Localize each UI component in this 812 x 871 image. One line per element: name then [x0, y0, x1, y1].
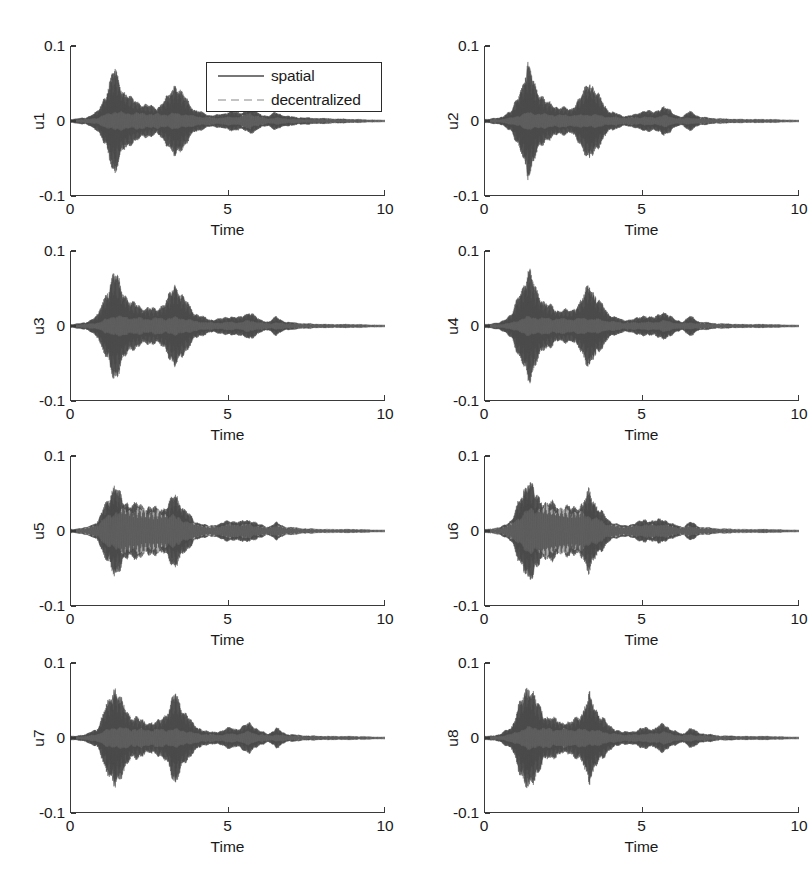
y-axis-title-u5: u5: [30, 522, 48, 539]
x-axis-line: [484, 400, 799, 401]
x-axis-line: [70, 812, 385, 813]
x-tick-label: 10: [791, 406, 808, 422]
x-tick-label: 0: [66, 406, 74, 422]
waveform-u8: [484, 663, 799, 813]
y-tick-label: 0: [57, 113, 65, 129]
x-axis-line: [484, 195, 799, 196]
x-axis-title: Time: [211, 426, 245, 444]
plot-area-u5: 0.10-0.10510Timeu5: [70, 456, 385, 606]
subplot-u5: 0.10-0.10510Timeu5: [24, 448, 399, 653]
x-axis-line: [484, 605, 799, 606]
plot-area-u1: 0.10-0.10510Timeu1spatialdecentralized: [70, 46, 385, 196]
y-tick: [71, 530, 76, 531]
x-tick-label: 10: [791, 611, 808, 627]
y-axis-title-u3: u3: [30, 317, 48, 334]
x-tick: [70, 600, 71, 605]
subplot-u6: 0.10-0.10510Timeu6: [438, 448, 812, 653]
plot-area-u7: 0.10-0.10510Timeu7: [70, 663, 385, 813]
x-tick: [642, 395, 643, 400]
solid-line-icon: [216, 69, 266, 83]
plot-area-u2: 0.10-0.10510Timeu2: [484, 46, 799, 196]
y-tick: [71, 737, 76, 738]
y-tick-label: 0.1: [44, 243, 65, 259]
y-tick-label: -0.1: [453, 188, 479, 204]
dashed-line-icon: [216, 93, 266, 107]
x-axis-title: Time: [625, 631, 659, 649]
y-tick-label: -0.1: [453, 805, 479, 821]
x-tick-label: 10: [377, 201, 394, 217]
y-tick: [485, 605, 490, 606]
x-tick-label: 5: [637, 201, 645, 217]
waveform-u2: [484, 46, 799, 196]
y-tick-label: -0.1: [39, 598, 65, 614]
x-axis-title: Time: [625, 426, 659, 444]
x-tick-label: 5: [223, 818, 231, 834]
x-tick: [228, 190, 229, 195]
waveform-u5: [70, 456, 385, 606]
y-tick: [485, 737, 490, 738]
y-tick: [71, 400, 76, 401]
y-tick: [71, 605, 76, 606]
y-tick: [485, 250, 490, 251]
x-tick-label: 5: [637, 818, 645, 834]
y-tick-label: 0.1: [44, 655, 65, 671]
x-tick-label: 5: [637, 406, 645, 422]
y-tick: [485, 400, 490, 401]
subplot-u3: 0.10-0.10510Timeu3: [24, 243, 399, 448]
y-tick-label: -0.1: [453, 598, 479, 614]
x-tick: [798, 395, 799, 400]
waveform-u7: [70, 663, 385, 813]
y-tick: [485, 455, 490, 456]
y-axis-title-u4: u4: [444, 317, 462, 334]
waveform-u3: [70, 251, 385, 401]
x-tick: [642, 190, 643, 195]
x-tick-label: 10: [377, 611, 394, 627]
x-axis-title: Time: [625, 838, 659, 856]
y-tick-label: -0.1: [39, 393, 65, 409]
x-tick-label: 0: [480, 406, 488, 422]
x-tick: [384, 190, 385, 195]
x-tick-label: 0: [66, 611, 74, 627]
y-tick-label: 0.1: [44, 448, 65, 464]
x-tick-label: 0: [480, 611, 488, 627]
y-tick: [71, 325, 76, 326]
y-axis-title-u1: u1: [30, 112, 48, 129]
plot-area-u4: 0.10-0.10510Timeu4: [484, 251, 799, 401]
plot-area-u6: 0.10-0.10510Timeu6: [484, 456, 799, 606]
subplot-u8: 0.10-0.10510Timeu8: [438, 655, 812, 860]
x-axis-title: Time: [211, 631, 245, 649]
y-tick: [71, 250, 76, 251]
legend-label: spatial: [271, 68, 314, 84]
x-tick: [642, 600, 643, 605]
x-tick-label: 5: [223, 201, 231, 217]
x-axis-line: [70, 400, 385, 401]
legend-entry-spatial: spatial: [207, 63, 381, 88]
subplot-u2: 0.10-0.10510Timeu2: [438, 38, 812, 243]
y-tick: [485, 45, 490, 46]
x-tick-label: 10: [791, 201, 808, 217]
legend-box: spatialdecentralized: [206, 62, 382, 112]
y-tick: [71, 45, 76, 46]
y-tick-label: -0.1: [39, 805, 65, 821]
x-tick: [70, 190, 71, 195]
y-tick: [71, 195, 76, 196]
x-tick: [484, 600, 485, 605]
y-tick-label: 0: [57, 523, 65, 539]
y-tick: [485, 662, 490, 663]
legend-label: decentralized: [271, 92, 361, 108]
y-tick: [485, 325, 490, 326]
x-tick: [484, 395, 485, 400]
y-tick: [71, 662, 76, 663]
x-axis-title: Time: [211, 221, 245, 239]
x-tick-label: 10: [377, 406, 394, 422]
y-tick: [71, 812, 76, 813]
x-tick: [70, 395, 71, 400]
x-tick: [484, 807, 485, 812]
x-tick-label: 5: [223, 406, 231, 422]
x-tick: [384, 600, 385, 605]
y-tick-label: 0: [471, 113, 479, 129]
y-tick-label: 0: [57, 730, 65, 746]
y-tick: [71, 120, 76, 121]
x-tick: [228, 807, 229, 812]
